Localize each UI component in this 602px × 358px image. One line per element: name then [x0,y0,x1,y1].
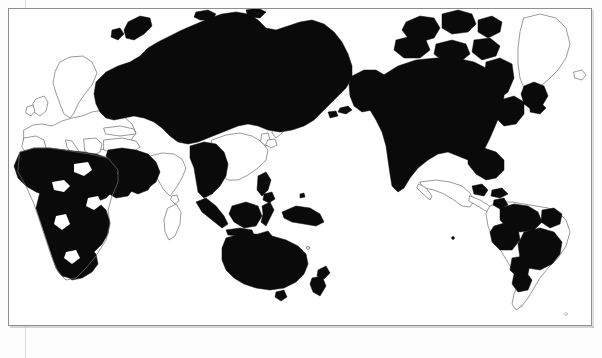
region-svalbard-filled [111,28,124,40]
region-arctic-island-b [246,8,266,18]
region-novaya-zemlya-filled [124,16,152,40]
region-arctic-canada-f [472,38,500,60]
map-page [0,0,602,358]
region-caribbean-filled [491,188,508,198]
region-tasmania-filled [275,290,287,301]
region-philippines-filled [257,172,271,196]
region-japan-south [266,139,277,148]
island-speck-d [452,237,455,240]
region-sri-lanka [171,195,179,204]
island-speck-c [300,193,305,198]
region-usa-east-filled [468,148,504,180]
region-borneo-filled [229,202,262,228]
region-arctic-island-a [194,10,216,20]
region-papua-new-guinea-filled [282,206,324,226]
region-sulawesi-filled [261,202,274,226]
region-scandinavia [53,56,97,118]
region-british-isles [33,96,48,116]
region-labrador-filled [496,96,524,126]
island-speck-b [312,111,318,116]
region-aleutians-b [328,111,338,118]
region-baffin-filled [484,58,514,100]
island-speck-a [300,103,307,108]
region-australia-filled [222,234,308,290]
region-madagascar [164,204,181,240]
region-aleutians-filled [338,106,352,114]
region-sumatra-filled [196,198,228,228]
region-southeast-asia-filled [190,142,228,198]
region-central-america-filled [472,184,488,196]
region-arctic-canada-b [442,10,476,34]
scan-speck-a [565,313,568,316]
world-map-svg [0,0,602,358]
region-ireland [26,105,35,116]
region-iceland [574,70,586,80]
region-philippines-south [263,192,275,203]
region-arctic-canada-c [478,16,502,38]
region-greenland [518,14,570,92]
